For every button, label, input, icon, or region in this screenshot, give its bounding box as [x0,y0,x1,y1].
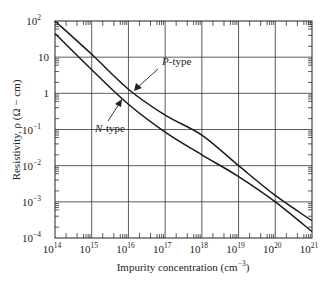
y-tick-base: 10 [22,124,34,136]
curve-p-type [55,21,312,221]
x-axis-label-end: ) [246,261,250,274]
y-tick-base: 10 [22,232,34,244]
x-tick-labels: 10141015101610171018101910201021 [43,241,319,255]
x-tick-label: 1018 [190,241,209,255]
y-tick-exp: 2 [37,13,41,22]
p-type-arrow [138,69,158,87]
y-tick-labels: 10210110−110−210−310−4 [22,13,49,244]
y-tick-exp: −3 [33,194,41,203]
x-tick-base: 10 [226,243,238,255]
y-tick-label: 10−3 [22,194,41,208]
x-tick-base: 10 [190,243,202,255]
y-tick-label: 10 [38,51,50,63]
x-axis-label: Impurity concentration (cm−3) [117,259,250,274]
x-tick-base: 10 [300,243,312,255]
n-type-label: N-type [94,122,125,134]
n-type-arrow [108,104,119,121]
x-tick-exp: 17 [164,241,172,250]
resistivity-chart: 10141015101610171018101910201021 1021011… [0,0,330,284]
grid [55,21,312,238]
y-tick-exp: −2 [33,158,41,167]
y-axis-label: Resistivity, ρ (Ω − cm) [10,79,23,180]
x-tick-label: 1015 [79,241,98,255]
p-type-label-suffix: -type [169,55,192,67]
n-type-label-suffix: -type [102,122,125,134]
curves [55,21,312,232]
y-tick-base: 10 [22,196,34,208]
x-tick-base: 10 [263,243,275,255]
x-tick-exp: 15 [90,241,98,250]
x-tick-exp: 14 [54,241,62,250]
y-tick-label: 10−2 [22,158,41,172]
n-type-arrowhead [115,99,122,107]
x-tick-exp: 19 [237,241,245,250]
y-tick-label: 102 [26,13,41,27]
x-axis-label-text: Impurity concentration (cm [117,261,238,274]
x-tick-label: 1016 [116,241,135,255]
x-tick-label: 1021 [300,241,319,255]
x-tick-base: 10 [43,243,55,255]
y-tick-label: 10−1 [22,122,41,136]
y-tick-label: 10−4 [22,230,41,244]
y-tick-base: 10 [26,15,38,27]
x-tick-label: 1020 [263,241,282,255]
y-tick-base: 10 [22,160,34,172]
p-type-label: P-type [161,55,191,67]
y-tick-base: 10 [38,51,50,63]
x-tick-label: 1014 [43,241,62,255]
x-tick-exp: 20 [274,241,282,250]
x-tick-label: 1017 [153,241,172,255]
x-tick-exp: 18 [201,241,209,250]
x-tick-label: 1019 [226,241,245,255]
x-axis-label-sup: −3 [238,259,246,268]
y-tick-label: 1 [44,87,50,99]
x-tick-exp: 16 [127,241,135,250]
x-tick-base: 10 [153,243,165,255]
x-tick-exp: 21 [311,241,319,250]
y-tick-base: 1 [44,87,50,99]
x-tick-base: 10 [116,243,128,255]
y-tick-exp: −1 [33,122,41,131]
x-tick-base: 10 [79,243,91,255]
y-tick-exp: −4 [33,230,41,239]
